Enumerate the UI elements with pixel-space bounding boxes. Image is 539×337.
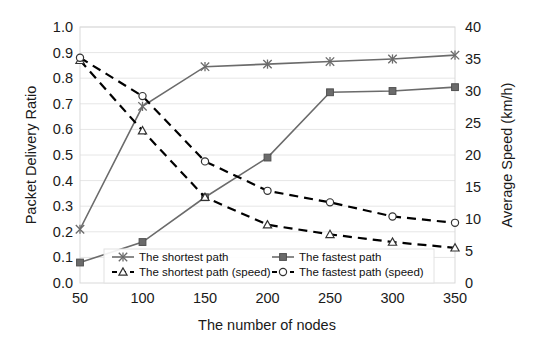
y-axis-right-tick: 0 (465, 275, 473, 291)
chart-figure: 0.00.10.20.30.40.50.60.70.80.91.0 051015… (0, 0, 539, 337)
legend-label: The fastest path (299, 251, 381, 263)
y-axis-left-tick: 0.9 (53, 45, 73, 61)
y-axis-left-tick: 0.5 (53, 147, 73, 163)
y-axis-left-tick: 0.0 (53, 275, 73, 291)
marker-circle (76, 54, 83, 61)
marker-square (280, 254, 287, 261)
marker-circle (389, 213, 396, 220)
chart-legend: The shortest pathThe fastest pathThe sho… (104, 249, 434, 283)
x-axis-tick: 350 (443, 290, 467, 306)
marker-circle (264, 187, 271, 194)
x-axis-title: The number of nodes (198, 317, 336, 333)
legend-label: The shortest path (139, 251, 229, 263)
chart-background (0, 0, 539, 337)
marker-square (77, 259, 84, 266)
x-axis-tick: 100 (130, 290, 154, 306)
marker-square (327, 89, 334, 96)
y-axis-right-tick: 25 (465, 115, 481, 131)
marker-circle (326, 199, 333, 206)
marker-square (264, 154, 271, 161)
marker-circle (279, 268, 286, 275)
y-axis-right-tick: 30 (465, 83, 481, 99)
marker-square (139, 239, 146, 246)
x-axis-tick: 200 (255, 290, 279, 306)
marker-circle (201, 158, 208, 165)
y-axis-left-tick: 0.6 (53, 121, 73, 137)
x-axis-tick: 300 (380, 290, 404, 306)
y-axis-right-tick: 10 (465, 211, 481, 227)
marker-square (389, 88, 396, 95)
y-axis-left-tick: 0.8 (53, 70, 73, 86)
y-axis-left-title: Packet Delivery Ratio (23, 86, 39, 225)
y-axis-right-tick: 5 (465, 243, 473, 259)
line-chart-canvas: 0.00.10.20.30.40.50.60.70.80.91.0 051015… (0, 0, 539, 337)
y-axis-left-tick: 1.0 (53, 19, 73, 35)
marker-square (452, 84, 459, 91)
x-axis-tick: 250 (318, 290, 342, 306)
x-axis-tick: 150 (193, 290, 217, 306)
y-axis-left-tick: 0.4 (53, 173, 73, 189)
marker-circle (139, 93, 146, 100)
x-axis-tick: 50 (72, 290, 88, 306)
legend-label: The shortest path (speed) (139, 266, 271, 278)
y-axis-left-tick: 0.1 (53, 249, 73, 265)
y-axis-left-tick: 0.3 (53, 198, 73, 214)
y-axis-right-tick: 40 (465, 19, 481, 35)
y-axis-right-tick: 20 (465, 147, 481, 163)
y-axis-right-tick: 15 (465, 179, 481, 195)
marker-circle (451, 219, 458, 226)
y-axis-left-tick: 0.2 (53, 224, 73, 240)
legend-label: The fastest path (speed) (299, 266, 424, 278)
y-axis-right-tick: 35 (465, 51, 481, 67)
y-axis-left-tick: 0.7 (53, 96, 73, 112)
y-axis-left-tick-labels: 0.00.10.20.30.40.50.60.70.80.91.0 (53, 19, 73, 291)
y-axis-right-title: Average Speed (km/h) (499, 83, 515, 228)
